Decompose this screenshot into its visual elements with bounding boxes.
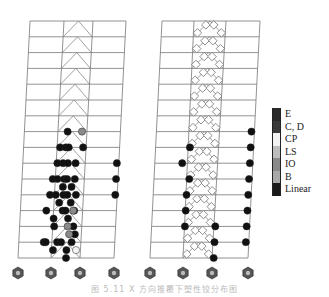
legend-label: C, D bbox=[285, 121, 304, 133]
plastic-hinge bbox=[244, 207, 251, 214]
column-line bbox=[18, 21, 30, 258]
brace bbox=[62, 37, 91, 53]
legend-swatch bbox=[272, 171, 281, 184]
plastic-hinge bbox=[67, 199, 74, 206]
legend-label: Linear bbox=[285, 183, 311, 195]
plastic-hinge bbox=[64, 160, 71, 167]
plastic-hinge bbox=[70, 207, 77, 214]
legend-label: E bbox=[285, 108, 291, 120]
legend-swatch bbox=[272, 183, 281, 196]
plastic-hinge bbox=[245, 175, 252, 182]
plastic-hinge bbox=[68, 183, 75, 190]
legend-label: CP bbox=[285, 133, 297, 145]
plastic-hinge bbox=[78, 128, 85, 135]
plastic-hinge bbox=[72, 247, 79, 254]
plastic-hinge bbox=[186, 175, 193, 182]
brace bbox=[60, 84, 89, 100]
right-frame bbox=[145, 21, 260, 279]
plastic-hinge bbox=[52, 191, 59, 198]
plastic-hinge bbox=[80, 144, 87, 151]
brace bbox=[61, 53, 90, 69]
plastic-hinge bbox=[64, 191, 71, 198]
brace bbox=[59, 100, 88, 116]
legend-item-ls: LS bbox=[272, 146, 311, 159]
plastic-hinge bbox=[42, 239, 49, 246]
plastic-hinge bbox=[112, 175, 119, 182]
plastic-hinge bbox=[112, 191, 119, 198]
plastic-hinge bbox=[71, 175, 78, 182]
legend-swatch bbox=[272, 133, 281, 146]
plastic-hinge bbox=[68, 239, 75, 246]
plastic-hinge bbox=[63, 247, 70, 254]
plastic-hinge bbox=[64, 175, 71, 182]
legend-item-b: B bbox=[272, 171, 311, 184]
plastic-hinge bbox=[62, 254, 69, 261]
support-icon bbox=[178, 267, 188, 279]
support-icon bbox=[207, 267, 217, 279]
plastic-hinge bbox=[54, 175, 61, 182]
plastic-hinge bbox=[186, 144, 193, 151]
support-icon bbox=[109, 267, 119, 279]
plastic-hinge bbox=[57, 239, 64, 246]
plastic-hinge bbox=[65, 144, 72, 151]
support-icon bbox=[75, 267, 85, 279]
plastic-hinge bbox=[56, 199, 63, 206]
plastic-hinge bbox=[179, 160, 186, 167]
plastic-hinge bbox=[210, 254, 217, 261]
column-line bbox=[80, 21, 93, 258]
plastic-hinge bbox=[246, 160, 253, 167]
plastic-hinge bbox=[62, 207, 69, 214]
support-icon bbox=[13, 267, 23, 279]
legend-item-io: IO bbox=[272, 158, 311, 171]
legend-swatch bbox=[272, 146, 281, 159]
plastic-hinge bbox=[211, 239, 218, 246]
column-line bbox=[51, 21, 64, 258]
plastic-hinge bbox=[50, 215, 57, 222]
legend-swatch bbox=[272, 108, 281, 121]
hinge-legend: E C, D CP LS IO B Linear bbox=[272, 108, 311, 196]
legend-swatch bbox=[272, 121, 281, 134]
legend-item-cd: C, D bbox=[272, 121, 311, 134]
plastic-hinge bbox=[59, 183, 66, 190]
legend-label: B bbox=[285, 171, 292, 183]
plastic-hinge bbox=[247, 144, 254, 151]
support-icon bbox=[243, 267, 253, 279]
plastic-hinge bbox=[43, 207, 50, 214]
plastic-hinge bbox=[64, 223, 71, 230]
plastic-hinge bbox=[72, 191, 79, 198]
column-line bbox=[114, 21, 126, 258]
legend-item-linear: Linear bbox=[272, 183, 311, 196]
left-frame bbox=[13, 21, 126, 279]
plastic-hinge bbox=[64, 128, 71, 135]
plastic-hinge bbox=[183, 191, 190, 198]
plastic-hinge bbox=[243, 223, 250, 230]
plastic-hinge bbox=[245, 191, 252, 198]
plastic-hinge bbox=[113, 160, 120, 167]
plastic-hinge bbox=[242, 239, 249, 246]
plastic-hinge bbox=[181, 223, 188, 230]
legend-item-cp: CP bbox=[272, 133, 311, 146]
legend-label: LS bbox=[285, 146, 297, 158]
support-icon bbox=[145, 267, 155, 279]
plastic-hinge bbox=[212, 223, 219, 230]
plastic-hinge bbox=[49, 247, 56, 254]
support-icon bbox=[46, 267, 56, 279]
plastic-hinge bbox=[64, 215, 71, 222]
brace bbox=[63, 21, 92, 37]
plastic-hinge bbox=[72, 160, 79, 167]
plastic-hinge bbox=[248, 128, 255, 135]
legend-item-e: E bbox=[272, 108, 311, 121]
legend-swatch bbox=[272, 158, 281, 171]
plastic-hinge bbox=[182, 207, 189, 214]
plastic-hinge bbox=[66, 231, 73, 238]
legend-label: IO bbox=[285, 158, 296, 170]
figure-caption: 图 5.11 X 方向推覆下塑性铰分布图 bbox=[0, 283, 329, 294]
column-line bbox=[150, 21, 162, 258]
column-line bbox=[248, 21, 260, 258]
plastic-hinge bbox=[51, 223, 58, 230]
brace bbox=[61, 68, 90, 84]
